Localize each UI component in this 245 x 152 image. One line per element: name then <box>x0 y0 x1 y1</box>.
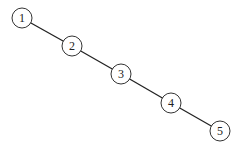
node-5: 5 <box>210 121 230 141</box>
node-label: 5 <box>217 124 223 138</box>
node-4: 4 <box>161 93 181 113</box>
node-label: 3 <box>118 67 124 81</box>
node-2: 2 <box>62 36 82 56</box>
chain-diagram: 1 2 3 4 5 <box>0 0 245 152</box>
node-label: 1 <box>19 11 25 25</box>
node-3: 3 <box>111 64 131 84</box>
node-label: 2 <box>69 39 75 53</box>
node-label: 4 <box>168 96 174 110</box>
node-1: 1 <box>12 8 32 28</box>
